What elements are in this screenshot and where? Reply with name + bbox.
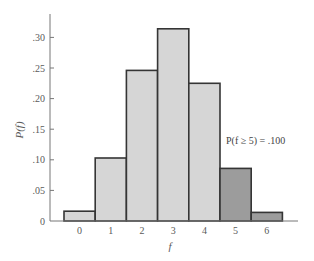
histogram-chart: 0.05.10.15.20.25.30 0123456 f P(f) <box>0 0 314 261</box>
probability-annotation: P(f ≥ 5) = .100 <box>226 135 285 146</box>
x-tick-label: 4 <box>202 225 207 236</box>
y-tick-label: .30 <box>33 32 46 43</box>
bar-0 <box>64 211 95 221</box>
y-tick-label: .10 <box>33 154 46 165</box>
bar-5 <box>220 168 251 221</box>
x-tick-label: 0 <box>77 225 82 236</box>
bar-2 <box>126 70 157 221</box>
y-tick-label: .15 <box>33 124 46 135</box>
x-axis-label: f <box>168 240 173 252</box>
bar-6 <box>251 212 282 221</box>
y-axis-label: P(f) <box>13 121 26 139</box>
y-tick-label: .25 <box>33 63 46 74</box>
x-tick-label: 2 <box>140 225 145 236</box>
bars-group <box>64 29 282 221</box>
x-tick-label: 3 <box>171 225 176 236</box>
y-ticks: 0.05.10.15.20.25.30 <box>33 32 55 227</box>
bar-1 <box>95 158 126 221</box>
y-tick-label: .05 <box>33 185 46 196</box>
x-tick-label: 1 <box>108 225 113 236</box>
y-tick-label: .20 <box>33 93 46 104</box>
x-tick-labels: 0123456 <box>77 225 269 236</box>
bar-4 <box>189 83 220 221</box>
y-tick-label: 0 <box>40 216 45 227</box>
bar-3 <box>158 29 189 221</box>
x-tick-label: 5 <box>233 225 238 236</box>
x-tick-label: 6 <box>264 225 269 236</box>
